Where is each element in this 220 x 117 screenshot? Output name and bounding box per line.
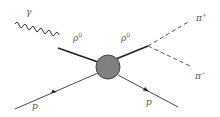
proton-in-label: p [32, 102, 38, 111]
interaction-blob [96, 55, 120, 79]
pi-minus-dashed-line [148, 46, 190, 66]
rho-right-label: ρ0 [121, 32, 130, 43]
proton-in-arrow-icon [51, 90, 57, 94]
rho-right-line [116, 46, 148, 59]
pi-plus-dashed-line [148, 22, 188, 46]
proton-in-line [15, 73, 98, 109]
pi-minus-label: π− [195, 70, 206, 81]
feynman-diagram: γ ρ0 ρ0 π+ π− p p [0, 0, 220, 117]
rho-left-label: ρ0 [73, 32, 82, 43]
proton-out-label: p [146, 98, 152, 107]
photon-label: γ [26, 8, 31, 17]
proton-out-arrow-icon [143, 87, 149, 92]
rho-left-line [58, 48, 98, 62]
photon-wavy-line [15, 22, 59, 36]
diagram-lines [0, 0, 220, 117]
pi-plus-label: π+ [196, 12, 207, 23]
